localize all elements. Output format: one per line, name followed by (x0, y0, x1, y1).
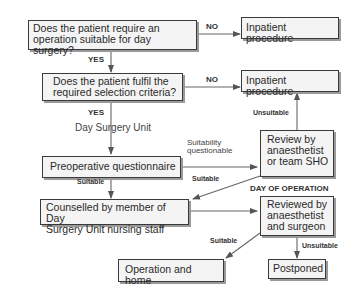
label-day-of-operation: DAY OF OPERATION (250, 184, 329, 193)
node-text: Postponed (273, 262, 323, 274)
node-text: or team SHO (267, 156, 329, 167)
node-text: Counselled by member of Day (46, 202, 184, 224)
label-unsuitable-2: Unsuitable (302, 242, 338, 249)
node-text: Surgery Unit nursing staff (46, 224, 184, 235)
node-postponed: Postponed (268, 259, 326, 279)
node-inpatient-procedure-2: Inpatient procedure (241, 70, 339, 92)
node-counselled-nursing-staff: Counselled by member of Day Surgery Unit… (40, 199, 189, 225)
node-text: required selection criteria? (53, 87, 178, 98)
node-text: Inpatient procedure (246, 21, 293, 44)
node-text: Preoperative questionnaire (50, 160, 176, 172)
node-inpatient-procedure-1: Inpatient procedure (241, 17, 339, 39)
node-text: and surgeon (267, 221, 329, 232)
label-suitable-2: Suitable (192, 175, 219, 182)
label-suitable-3: Suitable (210, 237, 237, 244)
label-unsuitable-1: Unsuitable (253, 109, 289, 116)
day-surgery-unit-label: Day Surgery Unit (75, 122, 151, 133)
node-reviewed-anaesthetist-surgeon: Reviewed by anaesthetist and surgeon (260, 196, 334, 236)
node-text: operation suitable for day surgery? (33, 34, 192, 56)
label-yes-2: YES (88, 108, 104, 117)
node-selection-criteria-question: Does the patient fulfil the required sel… (42, 73, 183, 101)
label-suitable-1: Suitable (77, 178, 104, 185)
node-text: Inpatient procedure (246, 74, 293, 97)
label-no-2: NO (206, 75, 218, 84)
node-review-anaesthetist-sho: Review by anaesthetist or team SHO (260, 130, 334, 177)
label-suitability-questionable: Suitability questionable (187, 139, 232, 155)
node-operation-and-home: Operation and home (118, 259, 224, 282)
label-yes-1: YES (88, 55, 104, 64)
node-preoperative-questionnaire: Preoperative questionnaire (42, 156, 181, 178)
label-text: questionable (187, 147, 232, 155)
label-no-1: NO (206, 22, 218, 31)
node-day-surgery-question: Does the patient require an operation su… (28, 20, 197, 50)
